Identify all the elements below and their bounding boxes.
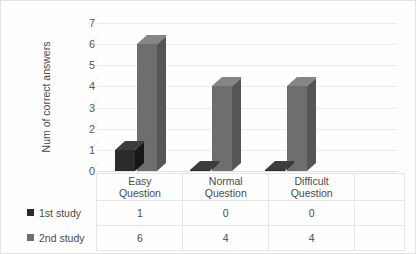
bar-group [172,23,247,171]
table-column-header: EasyQuestion [97,174,183,201]
bar-1st-study-difficult [265,162,285,171]
bar-2nd-study-normal [212,77,232,171]
table-value-cell: 6 [97,226,183,251]
y-tick-label-7: 7 [67,18,95,29]
legend-item-2nd-study[interactable]: 2nd study [13,226,97,251]
bar-side-face [157,36,166,171]
table-value-cell: 4 [183,226,269,251]
y-tick-label-4: 4 [67,81,95,92]
table-header-row: EasyQuestionNormalQuestionDifficultQuest… [13,174,405,201]
bar-front-face [265,170,285,171]
legend-label: 1st study [39,208,81,220]
bar-1st-study-normal [190,162,210,171]
table-row: 1st study100 [13,201,405,226]
y-tick-label-5: 5 [67,60,95,71]
bar-group [247,23,322,171]
table-empty-column-header [355,174,405,201]
data-table: EasyQuestionNormalQuestionDifficultQuest… [13,173,405,251]
legend-item-1st-study[interactable]: 1st study [13,201,97,226]
bar-side-face [232,78,241,171]
y-tick-label-2: 2 [67,123,95,134]
legend-swatch-icon [27,234,34,241]
table-empty-cell [355,201,405,226]
bar-front-face [287,86,307,171]
table-row: 2nd study644 [13,226,405,251]
bar-front-face [212,86,232,171]
table-empty-cell [355,226,405,251]
bar-front-face [115,150,135,171]
bar-front-face [190,170,210,171]
y-tick-label-1: 1 [67,144,95,155]
bar-2nd-study-difficult [287,77,307,171]
bar-group [97,23,172,171]
legend-label: 2nd study [39,233,85,245]
table-value-cell: 1 [97,201,183,226]
table-value-cell: 0 [183,201,269,226]
y-tick-label-3: 3 [67,102,95,113]
table-column-header: DifficultQuestion [269,174,355,201]
table-column-header: NormalQuestion [183,174,269,201]
table-corner-cell [13,174,97,201]
table-value-cell: 0 [269,201,355,226]
y-axis-title: Num of correct answers [37,23,55,171]
gridline-0 [97,171,397,172]
plot-area: 76543210 [97,23,397,171]
chart-figure: Num of correct answers 76543210 EasyQues… [0,0,416,254]
bar-1st-study-easy [115,141,135,171]
table-value-cell: 4 [269,226,355,251]
y-tick-label-6: 6 [67,39,95,50]
legend-swatch-icon [27,209,34,216]
bar-side-face [307,78,316,171]
